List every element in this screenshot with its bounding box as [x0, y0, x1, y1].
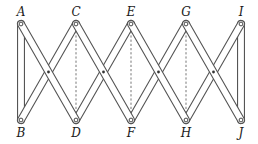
pivot-top-E	[129, 22, 133, 26]
pivot-bottom-F	[129, 118, 133, 122]
pivot-top-C	[74, 22, 78, 26]
pivot-cross-2	[157, 71, 160, 74]
pivot-cross-1	[102, 71, 105, 74]
label-C: C	[71, 6, 80, 18]
label-I: I	[239, 6, 244, 18]
pivot-bottom-B	[19, 118, 23, 122]
label-A: A	[17, 6, 26, 18]
label-D: D	[71, 127, 81, 139]
pivot-top-I	[239, 22, 243, 26]
pivot-bottom-H	[184, 118, 188, 122]
label-J: J	[239, 127, 244, 139]
label-E: E	[127, 6, 136, 18]
label-B: B	[17, 127, 26, 139]
pivot-top-A	[19, 22, 23, 26]
pivot-cross-0	[47, 71, 50, 74]
label-F: F	[127, 127, 135, 139]
lazy-tongs-diagram: ACEGIBDFHJ	[0, 0, 258, 144]
pivot-cross-3	[212, 71, 215, 74]
label-G: G	[181, 6, 191, 18]
pivot-bottom-D	[74, 118, 78, 122]
pivot-bottom-J	[239, 118, 243, 122]
label-H: H	[181, 127, 191, 139]
pivot-top-G	[184, 22, 188, 26]
linkage-drawing	[0, 0, 258, 144]
